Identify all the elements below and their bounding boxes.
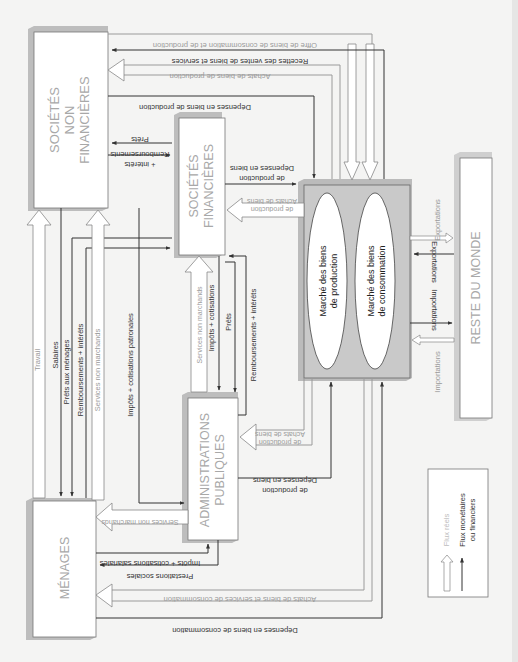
flow-achats-production-sf: de production Achats de biens [227, 198, 304, 222]
flow-depenses-production-sf: de production Dépenses en biens [225, 164, 296, 184]
marche-production-1: Marché des biens [318, 245, 328, 317]
svg-text:de production: de production [262, 486, 307, 495]
flow-exportations-real: Exportations [410, 199, 453, 243]
svg-text:Salaires: Salaires [51, 341, 60, 368]
svg-text:Importations: Importations [433, 351, 442, 393]
svg-text:+ intérêts: + intérêts [124, 160, 155, 169]
marche-production-2: de production [329, 254, 339, 309]
svg-text:Achats de biens et services de: Achats de biens et services de consommat… [164, 595, 317, 604]
snf-label-3: FINANCIÈRES [77, 76, 92, 164]
svg-text:Achats de biens: Achats de biens [255, 431, 305, 438]
svg-text:de production: de production [259, 438, 302, 446]
flow-salaires: Salaires [51, 208, 61, 496]
flow-services-non-marchands-snf: Services non marchands [86, 210, 110, 500]
legend-money-label-2: ou financiers [468, 498, 477, 541]
svg-text:Achats de biens de production: Achats de biens de production [170, 72, 271, 81]
flow-remboursements-ap: Remboursements + intérêts [229, 256, 258, 415]
snf-label-2: NON [62, 106, 77, 135]
sf-label-2: FINANCIÈRES [201, 144, 216, 228]
svg-text:Offre de biens de consommation: Offre de biens de consommation et de pro… [153, 41, 317, 50]
flow-exportations-money: Exportations [414, 241, 454, 283]
svg-text:Prêts aux ménages: Prêts aux ménages [62, 339, 71, 404]
box-menages: MÉNAGES [26, 498, 96, 640]
svg-text:Exportations: Exportations [433, 199, 442, 241]
svg-text:Prêts: Prêts [224, 313, 233, 331]
rdm-label: RESTE DU MONDE [469, 231, 483, 344]
svg-text:de production: de production [251, 205, 294, 213]
svg-text:Remboursements + intérêts: Remboursements + intérêts [249, 289, 258, 382]
flow-achats-production-ap: de production Achats de biens [240, 378, 312, 450]
svg-text:Services non marchands: Services non marchands [101, 519, 179, 526]
svg-text:Exportations: Exportations [430, 241, 439, 283]
svg-text:Dépenses en biens de consommat: Dépenses en biens de consommation [172, 626, 298, 635]
svg-text:Remboursements + intérêts: Remboursements + intérêts [76, 324, 85, 417]
box-societes-financieres: SOCIÉTÉS FINANCIÈRES [174, 112, 225, 258]
ap-label-1: ADMINISTRATIONS [198, 413, 212, 527]
svg-text:Travail: Travail [33, 349, 42, 372]
menages-label: MÉNAGES [57, 537, 72, 600]
svg-text:Remboursements: Remboursements [110, 150, 169, 159]
circular-flow-diagram: SOCIÉTÉS NON FINANCIÈRES SOCIÉTÉS FINANC… [0, 0, 518, 662]
svg-text:Prêts: Prêts [131, 135, 149, 144]
svg-text:Dépenses en biens: Dépenses en biens [253, 476, 317, 485]
svg-text:Services non marchands: Services non marchands [93, 328, 102, 411]
ap-label-2: PUBLIQUES [213, 434, 227, 506]
legend-money-label-1: Flux monétaires [458, 493, 467, 547]
sf-label-1: SOCIÉTÉS [186, 154, 201, 217]
svg-text:Importations: Importations [430, 289, 439, 331]
real-arrows-into-market [344, 44, 378, 180]
flow-services-non-marchands-menages: Services non marchands [96, 503, 188, 531]
flow-prets-snf: Prêts [112, 135, 172, 144]
svg-text:Prestations sociales: Prestations sociales [126, 572, 193, 581]
page-edge [512, 0, 518, 662]
flow-remboursements-snf: + intérêts Remboursements [108, 150, 170, 169]
legend-real-label: Flux réels [442, 513, 451, 546]
svg-text:Impôts + cotisations patronale: Impôts + cotisations patronales [126, 313, 135, 417]
svg-text:Services non marchands: Services non marchands [196, 286, 203, 364]
box-reste-du-monde: RESTE DU MONDE [454, 152, 492, 421]
box-administrations-publiques: ADMINISTRATIONS PUBLIQUES [182, 392, 238, 543]
flow-importations-real: Importations [412, 335, 454, 393]
flow-impots-salariales: Impôts + cotisations salariales [96, 544, 208, 568]
diagram-page: SOCIÉTÉS NON FINANCIÈRES SOCIÉTÉS FINANC… [0, 0, 518, 662]
marche-consommation-2: de consommation [377, 245, 387, 316]
snf-label-1: SOCIÉTÉS [47, 87, 62, 153]
legend: Flux réels Flux monétaires ou financiers [428, 469, 488, 597]
svg-text:Dépenses en biens de productio: Dépenses en biens de production [139, 103, 251, 112]
box-societes-non-financieres: SOCIÉTÉS NON FINANCIÈRES [28, 26, 108, 211]
box-marches: Marché des biens de production Marché de… [298, 179, 412, 381]
flow-impots-cotisations-sf: Impôts + cotisations [207, 256, 219, 390]
svg-text:Impôts + cotisations salariale: Impôts + cotisations salariales [100, 559, 201, 568]
flow-remboursements-menages: Remboursements + intérêts [76, 248, 170, 498]
svg-text:Achats de biens: Achats de biens [247, 198, 297, 205]
flow-prets-ap: Prêts [224, 262, 235, 392]
svg-text:Impôts + cotisations: Impôts + cotisations [207, 285, 216, 352]
flow-travail: Travail [27, 210, 51, 498]
svg-text:Dépenses en biens: Dépenses en biens [230, 164, 294, 173]
svg-text:de production: de production [239, 174, 284, 183]
marche-consommation-1: Marché des biens [366, 245, 376, 317]
flow-importations-money: Importations [410, 289, 452, 331]
